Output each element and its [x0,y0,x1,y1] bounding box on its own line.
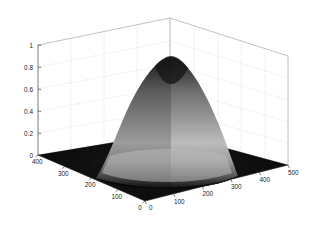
z-tick-label: 1 [29,42,33,49]
figure-canvas: 1 0.8 0.6 0.4 0.2 0 400 300 200 100 0 0 … [0,0,310,228]
y-tick-label: 400 [32,158,43,165]
y-tick-label: 0 [138,204,142,211]
z-tick-label: 0.2 [24,130,33,137]
z-tick-label: 0.4 [24,108,33,115]
x-tick-label: 500 [288,169,299,176]
y-tick-label: 300 [58,170,69,177]
x-tick-label: 400 [260,176,271,183]
x-tick-label: 200 [203,190,214,197]
x-tick-label: 0 [149,204,153,211]
z-tick-label: 0.8 [24,64,33,71]
gaussian-dome-highlight-band [102,149,232,182]
z-axis-tick-labels: 1 0.8 0.6 0.4 0.2 0 [24,42,33,159]
surface-plot-3d: 1 0.8 0.6 0.4 0.2 0 400 300 200 100 0 0 … [0,0,310,228]
x-tick-label: 300 [231,183,242,190]
y-tick-label: 200 [85,181,96,188]
z-tick-label: 0.6 [24,86,33,93]
x-tick-label: 100 [174,198,185,205]
y-tick-label: 100 [112,193,123,200]
